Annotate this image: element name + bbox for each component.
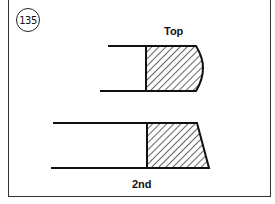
second-ring-profile bbox=[51, 123, 209, 168]
top-ring-profile bbox=[100, 46, 203, 91]
piston-ring-diagram bbox=[0, 0, 275, 204]
